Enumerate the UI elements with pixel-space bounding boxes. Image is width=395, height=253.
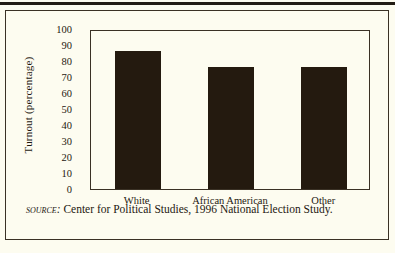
y-axis-title: Turnout (percentage): [22, 45, 34, 165]
top-rule: [0, 2, 395, 5]
y-tick-label: 0: [46, 185, 72, 196]
bar: [115, 51, 161, 189]
y-tick-label: 40: [46, 121, 72, 132]
y-tick-label: 50: [46, 105, 72, 116]
y-tick-label: 70: [46, 73, 72, 84]
figure-container: Turnout (percentage) 0102030405060708090…: [0, 0, 395, 253]
y-tick-label: 100: [46, 25, 72, 36]
source-label: Source:: [26, 203, 61, 215]
y-tick-label: 90: [46, 41, 72, 52]
bar: [208, 67, 254, 189]
bar: [301, 67, 347, 189]
source-text: Center for Political Studies, 1996 Natio…: [63, 203, 332, 215]
plot-frame: [90, 30, 370, 190]
y-tick-label: 10: [46, 169, 72, 180]
y-tick-label: 80: [46, 57, 72, 68]
y-tick-label: 60: [46, 89, 72, 100]
y-tick-label: 20: [46, 153, 72, 164]
source-note: Source: Center for Political Studies, 19…: [26, 203, 333, 215]
y-tick-label: 30: [46, 137, 72, 148]
